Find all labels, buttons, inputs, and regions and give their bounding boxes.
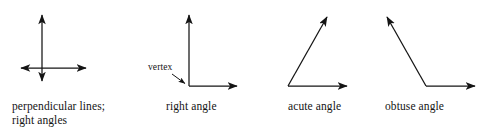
angles-figure: vertex perpendicular lines; right angles… xyxy=(0,0,492,132)
vertex-label: vertex xyxy=(148,62,172,73)
diagram-right-angle xyxy=(172,15,237,86)
obtuse-angle-upward-left-ray xyxy=(387,17,426,86)
diagram-acute-angle xyxy=(288,17,347,86)
diagram-obtuse-angle xyxy=(387,17,475,86)
diagram-perpendicular-lines xyxy=(21,15,86,81)
caption-obtuse-angle: obtuse angle xyxy=(385,100,444,114)
caption-perpendicular-lines: perpendicular lines; right angles xyxy=(12,100,105,127)
caption-right-angle: right angle xyxy=(166,100,217,114)
caption-acute-angle: acute angle xyxy=(288,100,341,114)
vertex-leader-arrow xyxy=(172,74,185,84)
acute-angle-upward-right-ray xyxy=(288,17,327,86)
